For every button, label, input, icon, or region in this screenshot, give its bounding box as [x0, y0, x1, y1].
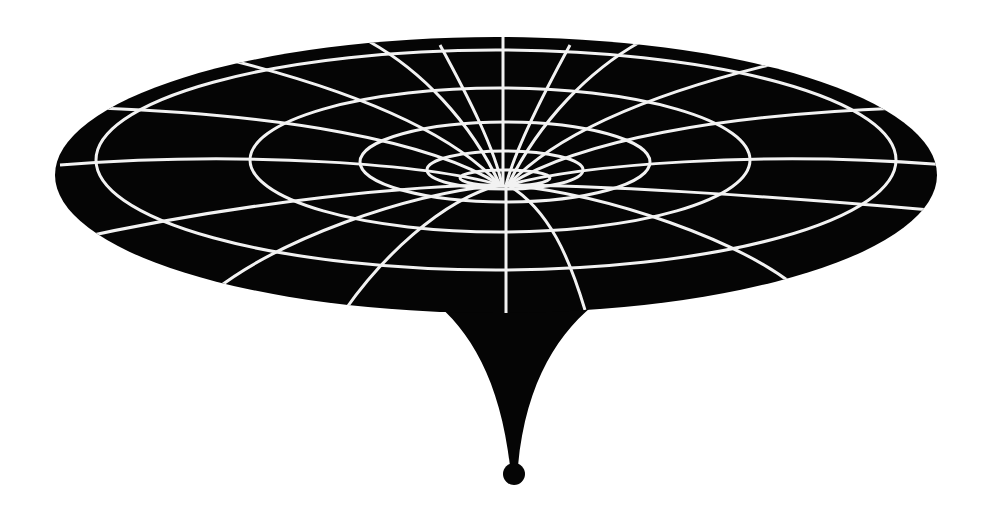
singularity-dot — [503, 463, 525, 485]
funnel-throat — [432, 300, 600, 466]
gravity-well-diagram — [0, 0, 991, 513]
spacetime-funnel-graphic — [0, 0, 991, 513]
